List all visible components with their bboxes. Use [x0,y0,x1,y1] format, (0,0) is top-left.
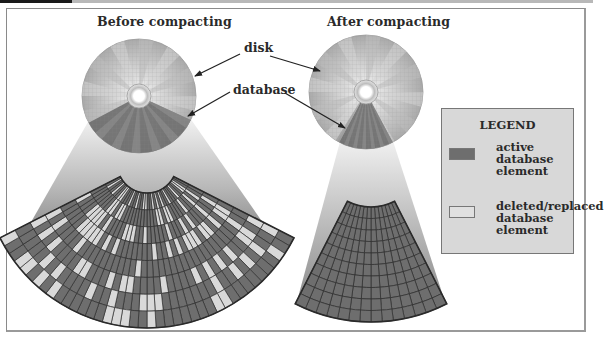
legend-title: LEGEND [442,118,573,132]
legend-swatch-active [449,148,475,160]
database-callout: database [233,82,296,97]
arrow-disk-left [195,54,240,76]
arrow-disk-right [270,56,320,71]
after-compacting-title: After compacting [327,14,450,29]
disk-callout: disk [244,40,273,55]
legend-swatch-deleted [449,206,475,218]
legend-label-active: active database element [496,141,554,177]
right-disk [309,35,423,149]
right-database-fan [295,201,447,322]
legend-label-deleted: deleted/replaced database element [496,200,604,236]
legend-box: LEGEND active database element deleted/r… [441,108,574,254]
left-disk [82,39,196,153]
before-compacting-title: Before compacting [97,14,232,29]
